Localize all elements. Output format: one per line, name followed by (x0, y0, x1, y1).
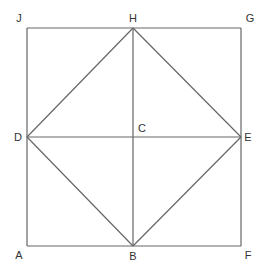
point-label-b: B (129, 250, 136, 262)
segment-dh (27, 28, 133, 137)
segment-bd (27, 137, 133, 246)
segment-eb (133, 137, 241, 246)
point-label-g: G (246, 12, 255, 24)
geometry-diagram: JHGDCEABF (0, 0, 264, 272)
point-label-e: E (244, 131, 251, 143)
point-label-h: H (129, 12, 137, 24)
point-label-a: A (15, 249, 23, 261)
point-label-j: J (16, 12, 22, 24)
point-label-f: F (245, 249, 252, 261)
point-label-c: C (138, 122, 146, 134)
segment-he (133, 28, 241, 137)
diagram-segments (27, 28, 241, 246)
point-label-d: D (14, 131, 22, 143)
